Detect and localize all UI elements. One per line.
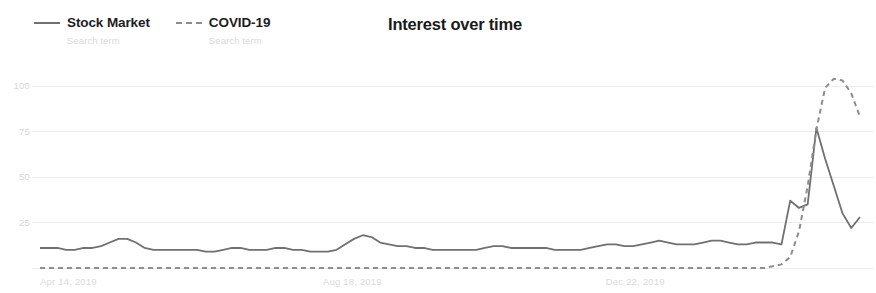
chart-legend: Stock Market Search term COVID-19 Search… bbox=[34, 14, 296, 46]
legend-item-covid-19[interactable]: COVID-19 Search term bbox=[176, 14, 270, 46]
legend-label-stock-market: Stock Market bbox=[67, 16, 150, 30]
legend-item-stock-market[interactable]: Stock Market Search term bbox=[34, 14, 150, 46]
y-tick-label: 25 bbox=[4, 217, 30, 228]
legend-line-solid-icon bbox=[34, 22, 60, 24]
x-tick-label: Apr 14, 2019 bbox=[40, 276, 97, 287]
chart-title: Interest over time bbox=[388, 15, 522, 34]
y-tick-label: 75 bbox=[4, 126, 30, 137]
series-line-stock-market bbox=[40, 128, 860, 252]
chart-header: Stock Market Search term COVID-19 Search… bbox=[0, 0, 876, 58]
plot-area: 255075100 Apr 14, 2019Aug 18, 2019Dec 22… bbox=[0, 58, 876, 293]
legend-label-covid-19: COVID-19 bbox=[209, 16, 270, 30]
legend-sublabel-stock-market: Search term bbox=[67, 36, 150, 46]
plot-svg bbox=[0, 58, 876, 293]
y-tick-label: 100 bbox=[4, 80, 30, 91]
x-tick-label: Aug 18, 2019 bbox=[323, 276, 382, 287]
legend-line-dashed-icon bbox=[176, 22, 202, 24]
legend-sublabel-covid-19: Search term bbox=[209, 36, 270, 46]
y-tick-label: 50 bbox=[4, 171, 30, 182]
interest-over-time-chart: Stock Market Search term COVID-19 Search… bbox=[0, 0, 876, 293]
series-lines bbox=[40, 79, 860, 268]
x-tick-label: Dec 22, 2019 bbox=[606, 276, 665, 287]
legend-top-stock-market: Stock Market bbox=[34, 14, 150, 32]
gridlines bbox=[32, 86, 874, 268]
legend-top-covid-19: COVID-19 bbox=[176, 14, 270, 32]
series-line-covid-19 bbox=[40, 79, 860, 268]
